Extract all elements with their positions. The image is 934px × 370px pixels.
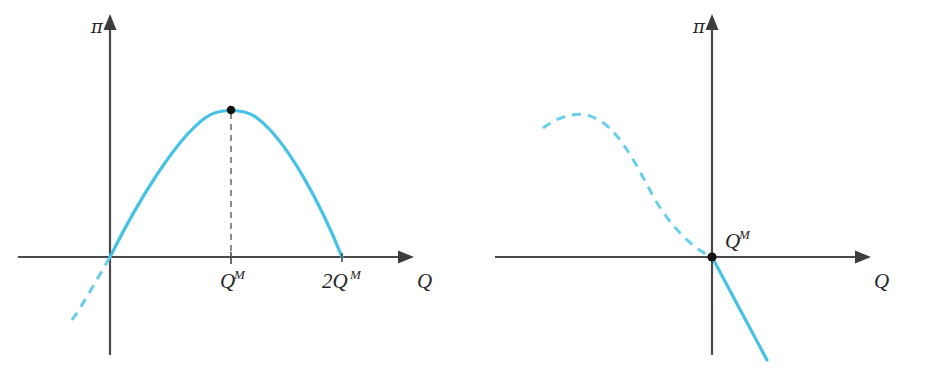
tick-label-q-m: Q	[725, 229, 740, 253]
y-axis-arrowhead	[706, 14, 719, 30]
x-axis-label-q: Q	[874, 269, 889, 293]
y-axis-arrowhead	[104, 14, 117, 30]
x-axis-arrowhead	[398, 251, 414, 264]
marginal-profit-curve-solid	[712, 257, 767, 360]
y-axis-label-pi: π	[692, 16, 706, 37]
tick-label-q-m-superscript: M	[738, 227, 751, 242]
profit-curve-solid	[110, 111, 342, 258]
y-axis-label-pi: π	[90, 16, 104, 37]
zero-marginal-profit-point-marker	[707, 252, 716, 261]
tick-label-q-m-superscript: M	[233, 267, 246, 282]
profit-parabola-panel: π Q Q M 2Q M	[0, 0, 467, 370]
profit-curve-dashed-extension	[72, 257, 110, 320]
x-axis-label-q: Q	[417, 269, 432, 293]
tick-label-2q-m: 2Q	[322, 269, 348, 293]
marginal-profit-panel: π Q Q M	[467, 0, 934, 370]
x-axis-arrowhead	[855, 251, 871, 264]
figure-root: π Q Q M 2Q M π Q Q M	[0, 0, 934, 370]
marginal-profit-curve-dashed	[543, 114, 712, 257]
maximum-profit-point-marker	[227, 106, 236, 115]
tick-label-2q-m-superscript: M	[349, 267, 362, 282]
tick-label-q-m: Q	[220, 269, 235, 293]
